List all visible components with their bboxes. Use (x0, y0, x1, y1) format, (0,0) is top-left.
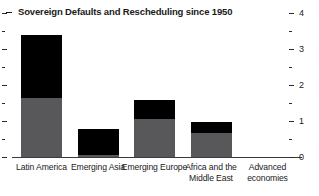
y-tick-major-right-3 (289, 49, 294, 50)
y-tick-major-left-1 (2, 121, 7, 122)
y-tick-major-left-4 (2, 13, 7, 14)
bar-segment-upper (78, 129, 119, 155)
y-tick-major-right-4 (289, 13, 294, 14)
y-axis-label-4: 4 (299, 9, 304, 18)
y-tick-major-left-3 (2, 49, 7, 50)
x-axis-line (12, 157, 302, 158)
y-tick-major-right-0 (289, 157, 294, 158)
y-tick-major-right-2 (289, 85, 294, 86)
y-tick-minor-right-2.5 (289, 67, 292, 68)
y-tick-minor-right-0.5 (289, 139, 292, 140)
y-tick-minor-right-3.5 (289, 31, 292, 32)
y-tick-minor-left-3.5 (2, 31, 5, 32)
y-axis-label-1: 1 (299, 117, 304, 126)
y-axis-label-3: 3 (299, 45, 304, 54)
y-tick-major-left-2 (2, 85, 7, 86)
plot-area (12, 14, 285, 158)
y-tick-minor-left-2.5 (2, 67, 5, 68)
bar-segment-lower (134, 119, 175, 158)
bar-latin-america (21, 35, 62, 158)
bar-emerging-europe (134, 100, 175, 158)
bar-segment-lower (21, 98, 62, 158)
y-tick-minor-left-1.5 (2, 103, 5, 104)
x-axis-label-advanced-economies: Advanced economies (235, 162, 301, 183)
y-tick-major-left-0 (2, 157, 7, 158)
bar-segment-upper (134, 100, 175, 119)
y-tick-minor-left-0.5 (2, 139, 5, 140)
y-axis-label-0: 0 (299, 153, 304, 162)
chart-figure: Sovereign Defaults and Rescheduling sinc… (0, 0, 319, 196)
y-tick-minor-right-1.5 (289, 103, 292, 104)
bar-segment-lower (191, 133, 232, 158)
bar-africa-and-the-middle-east (191, 122, 232, 158)
y-tick-major-right-1 (289, 121, 294, 122)
bar-segment-upper (191, 122, 232, 133)
bar-segment-upper (21, 35, 62, 98)
y-axis-label-2: 2 (299, 81, 304, 90)
bar-emerging-asia (78, 129, 119, 158)
